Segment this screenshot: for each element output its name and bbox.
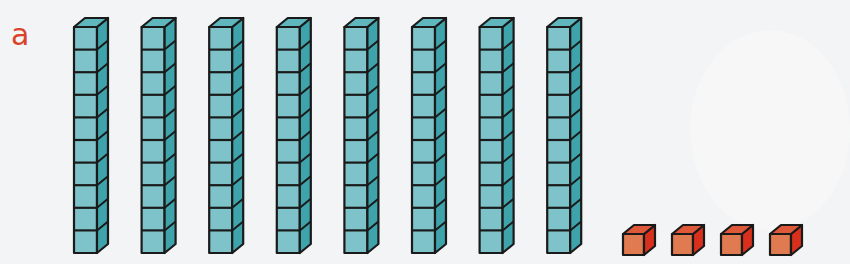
tens-rod [277,18,311,253]
tens-rod [344,18,378,253]
tens-rod [74,18,108,253]
tens-rod [209,18,243,253]
unit-cube [721,225,753,255]
tens-rod [412,18,446,253]
unit-cube [770,225,802,255]
tens-rod [142,18,176,253]
tens-rod [480,18,514,253]
unit-cube [672,225,704,255]
unit-cubes-group [623,225,802,255]
tens-rod [547,18,581,253]
unit-cube [623,225,655,255]
tens-rods-group [74,18,581,253]
